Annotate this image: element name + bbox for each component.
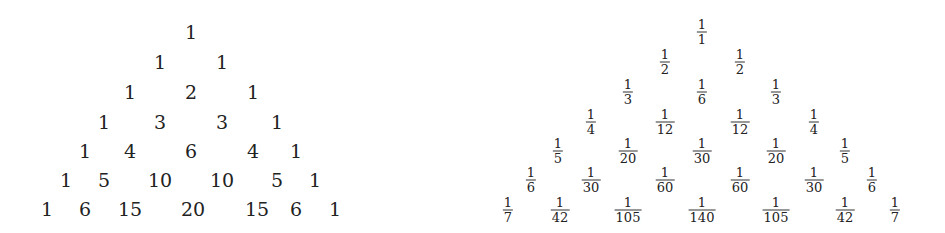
numerator: 1	[840, 197, 850, 210]
denominator: 140	[689, 211, 716, 224]
harmonic-fraction: 17	[503, 197, 513, 224]
numerator: 1	[586, 109, 596, 122]
denominator: 5	[553, 152, 563, 165]
denominator: 30	[805, 181, 824, 194]
numerator: 1	[771, 138, 781, 151]
denominator: 6	[867, 181, 877, 194]
harmonic-fraction: 130	[805, 167, 824, 194]
denominator: 42	[551, 211, 570, 224]
harmonic-fraction: 130	[582, 167, 601, 194]
numerator: 1	[890, 197, 900, 210]
denominator: 20	[767, 152, 786, 165]
harmonic-triangle: 1112121316131411211214151201301201516130…	[0, 0, 945, 233]
harmonic-fraction: 16	[697, 79, 707, 106]
harmonic-fraction: 12	[660, 49, 670, 76]
denominator: 2	[735, 63, 745, 76]
denominator: 6	[526, 181, 536, 194]
harmonic-fraction: 14	[809, 109, 819, 136]
numerator: 1	[867, 167, 877, 180]
denominator: 4	[809, 123, 819, 136]
harmonic-fraction: 160	[656, 167, 675, 194]
harmonic-fraction: 15	[840, 138, 850, 165]
numerator: 1	[526, 167, 536, 180]
numerator: 1	[555, 197, 565, 210]
numerator: 1	[697, 197, 707, 210]
harmonic-fraction: 13	[623, 79, 633, 106]
denominator: 3	[771, 93, 781, 106]
denominator: 20	[619, 152, 638, 165]
harmonic-fraction: 11	[697, 19, 707, 46]
harmonic-fraction: 16	[867, 167, 877, 194]
denominator: 30	[582, 181, 601, 194]
numerator: 1	[623, 79, 633, 92]
denominator: 6	[697, 93, 707, 106]
numerator: 1	[586, 167, 596, 180]
numerator: 1	[809, 167, 819, 180]
numerator: 1	[840, 138, 850, 151]
numerator: 1	[771, 79, 781, 92]
denominator: 3	[623, 93, 633, 106]
harmonic-fraction: 1140	[689, 197, 716, 224]
harmonic-fraction: 130	[693, 138, 712, 165]
denominator: 42	[836, 211, 855, 224]
denominator: 30	[693, 152, 712, 165]
denominator: 7	[890, 211, 900, 224]
harmonic-fraction: 142	[551, 197, 570, 224]
denominator: 12	[731, 123, 750, 136]
numerator: 1	[660, 109, 670, 122]
harmonic-fraction: 112	[731, 109, 750, 136]
numerator: 1	[623, 197, 633, 210]
denominator: 105	[763, 211, 790, 224]
denominator: 7	[503, 211, 513, 224]
harmonic-fraction: 1105	[763, 197, 790, 224]
harmonic-fraction: 142	[836, 197, 855, 224]
numerator: 1	[809, 109, 819, 122]
harmonic-fraction: 13	[771, 79, 781, 106]
denominator: 1	[697, 33, 707, 46]
numerator: 1	[697, 79, 707, 92]
harmonic-fraction: 112	[656, 109, 675, 136]
numerator: 1	[503, 197, 513, 210]
numerator: 1	[735, 109, 745, 122]
numerator: 1	[697, 19, 707, 32]
numerator: 1	[735, 167, 745, 180]
harmonic-fraction: 15	[553, 138, 563, 165]
numerator: 1	[553, 138, 563, 151]
numerator: 1	[735, 49, 745, 62]
denominator: 60	[731, 181, 750, 194]
harmonic-fraction: 17	[890, 197, 900, 224]
harmonic-fraction: 12	[735, 49, 745, 76]
numerator: 1	[660, 49, 670, 62]
harmonic-fraction: 120	[619, 138, 638, 165]
numerator: 1	[623, 138, 633, 151]
numerator: 1	[697, 138, 707, 151]
denominator: 12	[656, 123, 675, 136]
denominator: 60	[656, 181, 675, 194]
harmonic-fraction: 14	[586, 109, 596, 136]
harmonic-fraction: 120	[767, 138, 786, 165]
harmonic-fraction: 1105	[615, 197, 642, 224]
denominator: 105	[615, 211, 642, 224]
harmonic-fraction: 160	[731, 167, 750, 194]
denominator: 2	[660, 63, 670, 76]
harmonic-fraction: 16	[526, 167, 536, 194]
denominator: 5	[840, 152, 850, 165]
denominator: 4	[586, 123, 596, 136]
numerator: 1	[660, 167, 670, 180]
numerator: 1	[771, 197, 781, 210]
